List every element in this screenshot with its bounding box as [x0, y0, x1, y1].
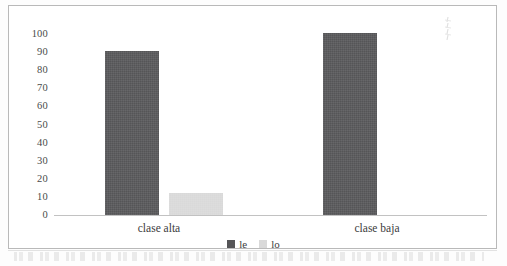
legend-label-lo: lo — [271, 238, 280, 250]
category-label-clase-baja: clase baja — [317, 222, 437, 234]
chart-frame: 100 90 80 70 60 50 40 30 20 10 0 clase a… — [8, 5, 497, 249]
scanned-page: 100 90 80 70 60 50 40 30 20 10 0 clase a… — [0, 0, 507, 266]
y-axis-tick-100: 100 — [18, 29, 48, 39]
bar-clase-alta-lo — [169, 193, 223, 215]
y-axis-tick-60: 60 — [18, 101, 48, 111]
scan-ghost-text — [14, 252, 484, 261]
y-axis-tick-10: 10 — [18, 192, 48, 202]
y-axis-tick-30: 30 — [18, 156, 48, 166]
y-axis-tick-40: 40 — [18, 138, 48, 148]
y-axis-tick-50: 50 — [18, 120, 48, 130]
y-axis-tick-0: 0 — [18, 210, 48, 220]
y-axis-tick-70: 70 — [18, 83, 48, 93]
category-label-clase-alta: clase alta — [99, 222, 219, 234]
legend-label-le: le — [239, 238, 247, 250]
x-axis-baseline — [54, 215, 487, 216]
legend-item-lo: lo — [259, 238, 280, 250]
legend-swatch-le-icon — [227, 240, 235, 248]
chart-legend: le lo — [9, 238, 498, 250]
bar-clase-alta-le — [105, 51, 159, 215]
y-axis-tick-80: 80 — [18, 65, 48, 75]
legend-item-le: le — [227, 238, 247, 250]
y-axis-tick-90: 90 — [18, 47, 48, 57]
plot-area: 100 90 80 70 60 50 40 30 20 10 0 — [54, 34, 487, 216]
page-edge-line — [8, 250, 497, 251]
legend-swatch-lo-icon — [259, 240, 267, 248]
bar-clase-baja-le — [323, 33, 377, 215]
y-axis-tick-20: 20 — [18, 174, 48, 184]
